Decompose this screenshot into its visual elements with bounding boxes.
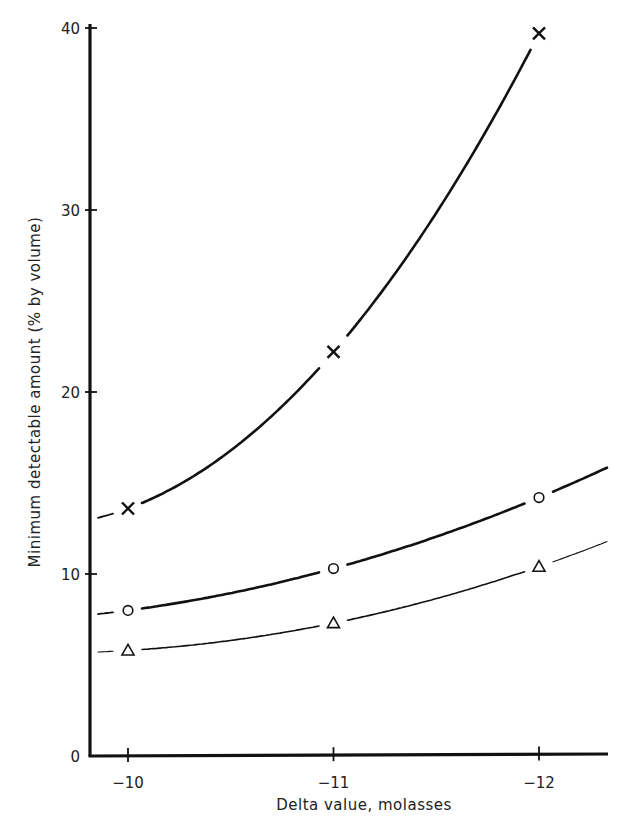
curve-circle bbox=[98, 612, 113, 614]
curve-cross bbox=[348, 50, 531, 336]
cross-marker bbox=[328, 346, 340, 358]
axes: 010203040−10−11−12 bbox=[61, 20, 608, 792]
y-tick-label: 0 bbox=[70, 748, 80, 766]
circle-marker bbox=[329, 564, 339, 574]
x-axis-title: Delta value, molasses bbox=[276, 796, 452, 814]
curve-circle bbox=[348, 504, 525, 565]
curve-circle bbox=[142, 572, 319, 608]
y-axis-title: Minimum detectable amount (% by volume) bbox=[26, 217, 44, 568]
x-axis-line bbox=[89, 754, 609, 756]
curve-triangle bbox=[553, 542, 607, 562]
curve-circle bbox=[553, 468, 607, 492]
cross-marker bbox=[122, 502, 134, 514]
triangle-marker bbox=[328, 617, 340, 628]
y-tick-label: 30 bbox=[61, 202, 80, 220]
markers bbox=[122, 27, 545, 654]
triangle-marker bbox=[533, 561, 545, 572]
triangle-marker bbox=[122, 644, 134, 655]
cross-marker bbox=[533, 27, 545, 39]
y-tick-label: 20 bbox=[61, 384, 80, 402]
x-tick-label: −12 bbox=[523, 774, 555, 792]
y-tick-label: 40 bbox=[61, 20, 80, 38]
circle-marker bbox=[123, 606, 133, 616]
curve-triangle bbox=[142, 626, 319, 650]
curves bbox=[98, 50, 607, 652]
circle-marker bbox=[534, 493, 544, 503]
curve-cross bbox=[98, 514, 113, 518]
x-tick-label: −10 bbox=[112, 774, 144, 792]
chart: 010203040−10−11−12 Delta value, molasses… bbox=[0, 0, 641, 831]
x-tick-label: −11 bbox=[318, 774, 350, 792]
curve-cross bbox=[142, 368, 319, 503]
y-tick-label: 10 bbox=[61, 566, 80, 584]
curve-triangle bbox=[98, 651, 113, 652]
curve-triangle bbox=[348, 572, 525, 621]
